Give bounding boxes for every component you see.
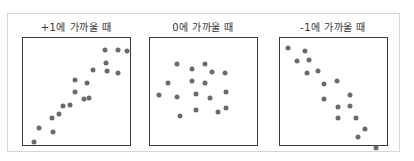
data-point bbox=[73, 90, 78, 95]
data-point bbox=[348, 104, 353, 109]
data-point bbox=[68, 103, 73, 108]
data-point bbox=[223, 71, 228, 76]
data-point bbox=[175, 95, 180, 100]
scatter-plot-positive bbox=[22, 37, 131, 146]
data-point bbox=[175, 62, 180, 67]
data-point bbox=[178, 114, 183, 119]
data-point bbox=[295, 59, 300, 64]
data-point bbox=[203, 62, 208, 67]
data-point bbox=[335, 79, 340, 84]
data-point bbox=[336, 116, 341, 121]
data-point bbox=[224, 106, 229, 111]
data-point bbox=[57, 112, 62, 117]
data-point bbox=[50, 116, 55, 121]
data-point bbox=[105, 69, 110, 74]
panel-title-positive: +1에 가까울 때 bbox=[21, 19, 131, 34]
data-point bbox=[157, 93, 162, 98]
data-point bbox=[73, 78, 78, 83]
data-point bbox=[51, 130, 56, 135]
data-point bbox=[336, 105, 341, 110]
data-point bbox=[194, 108, 199, 113]
data-point bbox=[37, 126, 42, 131]
data-point bbox=[203, 81, 208, 86]
data-point bbox=[190, 79, 195, 84]
data-point bbox=[356, 135, 361, 140]
data-point bbox=[208, 96, 213, 101]
data-point bbox=[85, 81, 90, 86]
scatter-plot-zero bbox=[149, 37, 258, 146]
data-point bbox=[216, 110, 221, 115]
scatter-plot-negative bbox=[279, 37, 388, 146]
data-point bbox=[61, 104, 66, 109]
data-point bbox=[363, 127, 368, 132]
data-point bbox=[305, 71, 310, 76]
panel-title-zero: 0에 가까울 때 bbox=[148, 19, 258, 34]
data-point bbox=[91, 68, 96, 73]
data-point bbox=[322, 82, 327, 87]
data-point bbox=[116, 71, 121, 76]
data-point bbox=[104, 61, 109, 66]
data-point bbox=[322, 97, 327, 102]
data-point bbox=[354, 116, 359, 121]
data-point bbox=[374, 146, 379, 151]
data-point bbox=[103, 48, 108, 53]
data-point bbox=[116, 48, 121, 53]
data-point bbox=[166, 81, 171, 86]
data-point bbox=[307, 58, 312, 63]
data-point bbox=[224, 90, 229, 95]
data-point bbox=[316, 69, 321, 74]
data-point bbox=[32, 140, 37, 145]
data-point bbox=[87, 96, 92, 101]
data-point bbox=[286, 46, 291, 51]
data-point bbox=[210, 70, 215, 75]
data-point bbox=[348, 93, 353, 98]
panel-title-negative: -1에 가까울 때 bbox=[278, 19, 388, 34]
data-point bbox=[125, 49, 130, 54]
data-point bbox=[194, 92, 199, 97]
data-point bbox=[303, 49, 308, 54]
data-point bbox=[190, 67, 195, 72]
